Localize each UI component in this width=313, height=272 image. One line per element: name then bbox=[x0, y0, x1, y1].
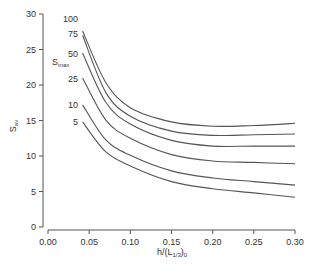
series-label: 100 bbox=[63, 14, 78, 24]
plot-lines bbox=[83, 31, 295, 197]
x-axis: 0.000.050.100.150.200.250.30 bbox=[39, 230, 304, 247]
y-tick-label: 5 bbox=[31, 187, 36, 197]
x-tick-label: 0.05 bbox=[80, 237, 98, 247]
x-tick-label: 0.20 bbox=[204, 237, 222, 247]
y-tick-label: 0 bbox=[31, 222, 36, 232]
series-label: 50 bbox=[68, 49, 78, 59]
series-labels: 100755025105 bbox=[63, 14, 78, 127]
y-tick-label: 15 bbox=[26, 116, 36, 126]
series-line-10 bbox=[83, 105, 295, 185]
series-label: 5 bbox=[73, 117, 78, 127]
x-tick-label: 0.00 bbox=[39, 237, 57, 247]
y-tick-label: 30 bbox=[26, 9, 36, 19]
series-line-25 bbox=[83, 78, 295, 164]
y-tick-label: 20 bbox=[26, 80, 36, 90]
series-label: 10 bbox=[68, 100, 78, 110]
y-axis: 051015202530 bbox=[26, 9, 43, 232]
y-axis-label: Sav bbox=[8, 120, 19, 132]
series-line-75 bbox=[83, 35, 295, 135]
series-label: 25 bbox=[68, 74, 78, 84]
y-tick-label: 25 bbox=[26, 45, 36, 55]
series-line-50 bbox=[83, 53, 295, 146]
chart: 051015202530 0.000.050.100.150.200.250.3… bbox=[0, 0, 313, 272]
series-label: 75 bbox=[68, 29, 78, 39]
x-tick-label: 0.15 bbox=[163, 237, 181, 247]
x-tick-label: 0.25 bbox=[245, 237, 263, 247]
x-tick-label: 0.10 bbox=[122, 237, 140, 247]
x-tick-label: 0.30 bbox=[286, 237, 304, 247]
series-line-100 bbox=[83, 31, 295, 126]
y-axis-label-subscript: av bbox=[13, 120, 19, 126]
y-tick-label: 10 bbox=[26, 151, 36, 161]
legend-title: Smax bbox=[52, 57, 69, 68]
series-line-5 bbox=[83, 122, 295, 197]
x-axis-label: h/(L1/3)0 bbox=[157, 247, 188, 258]
